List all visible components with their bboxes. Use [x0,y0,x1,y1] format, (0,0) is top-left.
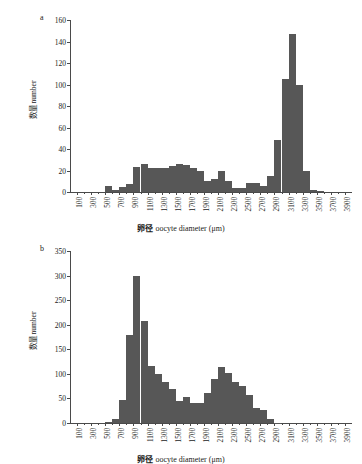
panel-b-x-tick [190,423,191,426]
histogram-bar [112,190,119,192]
panel-b-x-tick-label: 900 [132,428,140,439]
panel-b-y-tick [67,251,70,252]
panel-b-x-minor-tick [183,423,184,425]
panel-a-x-minor-tick [84,192,85,194]
panel-a-x-minor-tick [112,192,113,194]
panel-a-x-tick-label: 1900 [203,197,211,211]
histogram-bar [211,179,218,192]
y-axis-title-en: number [29,312,38,335]
histogram-bar [119,187,126,192]
panel-b-x-tick-label: 3100 [288,428,296,442]
histogram-bar [197,403,204,423]
panel-a-y-axis-line [70,20,71,192]
histogram-bar [169,166,176,192]
panel-a-y-tick [67,106,70,107]
panel-b-x-minor-tick [324,423,325,425]
panel-b-y-tick [67,349,70,350]
panel-a-x-tick [317,192,318,195]
panel-b-x-minor-tick [267,423,268,425]
panel-b-y-tick [67,398,70,399]
histogram-bar [197,171,204,193]
panel-b-y-tick [67,325,70,326]
histogram-bar [260,410,267,423]
histogram-bar [105,186,112,192]
panel-a-x-tick [77,192,78,195]
panel-b-x-tick [303,423,304,426]
panel-a-x-tick [176,192,177,195]
histogram-bar [267,176,274,192]
panel-a-y-axis-title: 数量 number [30,60,38,140]
histogram-bar [239,386,246,423]
panel-b-x-minor-tick [282,423,283,425]
panel-a-x-tick [133,192,134,195]
panel-b-x-minor-tick [169,423,170,425]
panel-b-x-tick [218,423,219,426]
x-axis-title-cn: 卵径 [137,455,153,464]
panel-b-x-minor-tick [225,423,226,425]
panel-b-y-tick-label: 350 [55,247,66,256]
panel-a-x-tick-label: 3500 [316,197,324,211]
panel-a-x-tick [218,192,219,195]
histogram-bar [289,34,296,192]
panel-a-plot-area: 0204060801001201401601003005007009001100… [70,20,352,192]
panel-a-x-tick-label: 500 [104,197,112,208]
panel-b-x-tick-label: 1700 [189,428,197,442]
panel-b-y-tick [67,423,70,424]
panel-b-x-tick-label: 2700 [259,428,267,442]
panel-b-x-minor-tick [141,423,142,425]
panel-a-x-tick [105,192,106,195]
histogram-bar [246,183,253,192]
panel-b-x-tick-label: 2100 [217,428,225,442]
panel-a-x-tick-label: 700 [118,197,126,208]
y-axis-title-en: number [29,81,38,104]
panel-a-x-minor-tick [282,192,283,194]
panel-b-x-tick [317,423,318,426]
panel-a-x-minor-tick [183,192,184,194]
panel-b-x-tick [91,423,92,426]
histogram-bar [267,419,274,423]
panel-a-x-tick-label: 3100 [288,197,296,211]
histogram-bar [225,181,232,192]
panel-a-x-tick-label: 3700 [330,197,338,211]
panel-a-y-tick [67,85,70,86]
panel-b-y-tick-label: 150 [55,345,66,354]
panel-b-y-tick-label: 200 [55,320,66,329]
panel-a-x-minor-tick [296,192,297,194]
panel-b-x-tick-label: 2300 [231,428,239,442]
histogram-bar [126,184,133,192]
panel-a-x-tick-label: 2100 [217,197,225,211]
histogram-bar [232,188,239,192]
panel-a-y-tick [67,63,70,64]
histogram-bar [211,379,218,423]
panel-a-y-tick-label: 140 [55,37,66,46]
panel-a-x-tick [246,192,247,195]
panel-a-x-minor-tick [267,192,268,194]
panel-a-x-tick-label: 2700 [259,197,267,211]
panel-b-x-tick [274,423,275,426]
panel-a-x-tick [91,192,92,195]
panel-b-x-minor-tick [84,423,85,425]
panel-a-x-minor-tick [98,192,99,194]
panel-b-x-tick [289,423,290,426]
histogram-bar [176,401,183,423]
panel-a-label: a [40,13,44,22]
panel-a-x-tick-label: 3300 [302,197,310,211]
histogram-bar [218,367,225,424]
panel-a-y-tick-label: 160 [55,16,66,25]
panel-a-x-tick [345,192,346,195]
panel-a-x-minor-tick [197,192,198,194]
panel-a-x-tick-label: 100 [76,197,84,208]
panel-b-x-minor-tick [239,423,240,425]
panel-a-x-tick [274,192,275,195]
panel-b-x-minor-tick [296,423,297,425]
y-axis-title-cn: 数量 [29,105,38,119]
panel-b-x-tick [331,423,332,426]
histogram-bar [148,366,155,423]
panel-b-x-tick [232,423,233,426]
histogram-bar [176,164,183,192]
panel-b-x-minor-tick [98,423,99,425]
histogram-bar [253,408,260,423]
panel-a-y-tick-label: 120 [55,59,66,68]
panel-a-x-tick [260,192,261,195]
